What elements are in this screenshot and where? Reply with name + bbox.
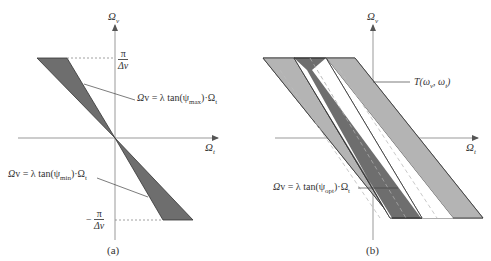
region-label-T: T(ωv, ωt) (414, 76, 450, 90)
figure-canvas (0, 0, 491, 261)
triangle-max-a (37, 58, 115, 138)
caption-a: (a) (107, 244, 119, 256)
leader-max-a (84, 84, 135, 100)
triangle-min-a (115, 138, 193, 220)
tick-pi-over-dv-top: π Δv (118, 48, 128, 71)
caption-b: (b) (366, 244, 379, 256)
axis-v-label-a: Ωv (108, 10, 119, 25)
axis-v-label-b: Ωv (367, 10, 378, 25)
equation-psi-min: Ωv = λ tan(ψmin)·Ωt (8, 168, 87, 182)
tick-pi-over-dv-bottom: π Δv (94, 208, 104, 231)
axis-h-label-b: Ωt (466, 141, 476, 156)
equation-psi-max: Ωv = λ tan(ψmax)·Ωt (137, 92, 217, 106)
equation-psi-opt: Ωv = λ tan(ψopt)·Ωt (273, 181, 350, 195)
tick-minus-sign: − (86, 214, 92, 225)
panel-b-graphics (263, 25, 483, 240)
axis-h-label-a: Ωt (205, 141, 215, 156)
